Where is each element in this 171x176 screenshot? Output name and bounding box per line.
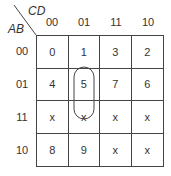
row-label: 11: [12, 111, 32, 123]
col-label: 00: [36, 16, 68, 28]
kmap-cell: 0: [37, 36, 69, 69]
col-label: 11: [100, 16, 132, 28]
kmap-cell: 4: [37, 69, 69, 102]
kmap-cell: 6: [132, 69, 164, 102]
row-label: 00: [12, 45, 32, 57]
kmap-cell: 8: [37, 134, 69, 167]
kmap-cell: 9: [69, 134, 101, 167]
row-label: 01: [12, 78, 32, 90]
kmap-cell: 7: [100, 69, 132, 102]
kmap-cell: 1: [69, 36, 101, 69]
kmap-cell: 2: [132, 36, 164, 69]
row-label: 10: [12, 144, 32, 156]
kmap-cell: x: [132, 134, 164, 167]
kmap-cell: x: [37, 101, 69, 134]
kmap-cell: x: [69, 101, 101, 134]
kmap-cell: 3: [100, 36, 132, 69]
kmap-grid: 0 1 3 2 4 5 7 6 x x x x 8 9 x x: [36, 35, 164, 167]
kmap-cell: 5: [69, 69, 101, 102]
kmap-cell: x: [100, 134, 132, 167]
kmap-cell: x: [100, 101, 132, 134]
col-label: 01: [68, 16, 100, 28]
kmap-cell: x: [132, 101, 164, 134]
col-label: 10: [132, 16, 164, 28]
row-variable-label: AB: [8, 22, 24, 36]
